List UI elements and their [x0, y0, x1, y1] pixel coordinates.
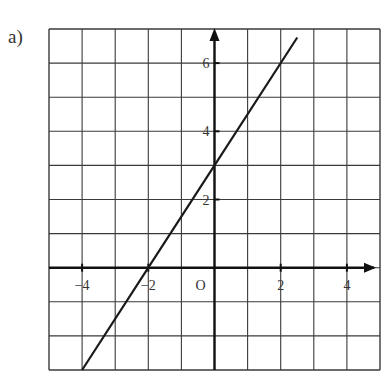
- tick-labels: −4−224246: [75, 56, 351, 293]
- plot-line: [82, 38, 297, 370]
- x-tick-label: −4: [75, 278, 90, 293]
- x-tick-label: 2: [277, 278, 284, 293]
- line-series: [82, 38, 297, 370]
- x-tick-label: −2: [141, 278, 156, 293]
- origin-label: O: [196, 278, 206, 293]
- x-axis-arrow-icon: [364, 263, 376, 273]
- coordinate-graph: −4−224246 O: [0, 0, 388, 388]
- y-tick-label: 2: [203, 193, 210, 208]
- y-tick-label: 4: [203, 124, 210, 139]
- y-tick-label: 6: [203, 56, 210, 71]
- x-tick-label: 4: [343, 278, 350, 293]
- y-axis-arrow-icon: [210, 28, 220, 41]
